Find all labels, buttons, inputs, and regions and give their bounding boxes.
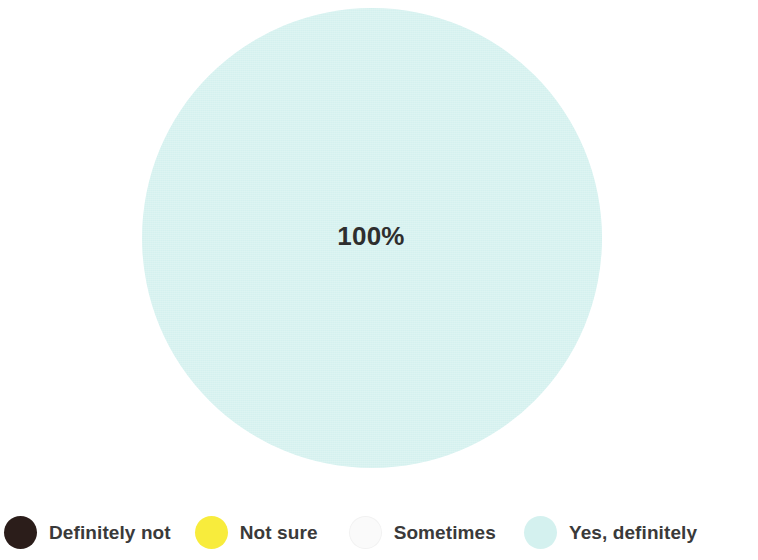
legend-label-not-sure: Not sure	[240, 523, 318, 542]
legend-swatch-sometimes-icon	[349, 516, 382, 549]
legend-label-yes-definitely: Yes, definitely	[569, 523, 697, 542]
legend-swatch-definitely-not-icon	[4, 516, 37, 549]
legend-item-not-sure[interactable]: Not sure	[195, 516, 318, 549]
legend-item-definitely-not[interactable]: Definitely not	[4, 516, 171, 549]
legend-item-yes-definitely[interactable]: Yes, definitely	[524, 516, 697, 549]
pie-graphic: 100%	[142, 8, 602, 468]
slice-value-label: 100%	[337, 221, 404, 252]
chart-legend: Definitely not Not sure Sometimes Yes, d…	[0, 505, 758, 560]
legend-swatch-not-sure-icon	[195, 516, 228, 549]
plot-area: 100%	[0, 0, 758, 505]
legend-swatch-yes-definitely-icon	[524, 516, 557, 549]
legend-item-sometimes[interactable]: Sometimes	[349, 516, 496, 549]
pie-chart-figure: 100% Definitely not Not sure Sometimes Y…	[0, 0, 758, 560]
legend-label-definitely-not: Definitely not	[49, 523, 171, 542]
legend-label-sometimes: Sometimes	[394, 523, 496, 542]
slice-value-label-wrap: 100%	[142, 8, 602, 468]
